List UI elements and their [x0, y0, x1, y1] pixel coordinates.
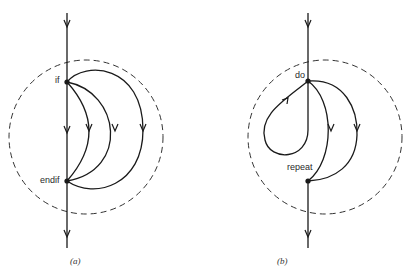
panel-a — [9, 13, 163, 248]
branch-outer-a — [67, 70, 143, 189]
caption-b: (b) — [277, 256, 288, 266]
branch-outer-b — [308, 81, 357, 181]
arrow-down-icon — [328, 124, 334, 131]
node-do — [305, 78, 310, 83]
panel-b — [248, 13, 402, 248]
label-do: do — [295, 70, 305, 80]
caption-a: (a) — [70, 256, 81, 266]
label-repeat: repeat — [287, 162, 313, 172]
loop-back-edge — [264, 81, 308, 155]
dashed-boundary-b — [248, 60, 402, 214]
branch-inner-a — [67, 82, 89, 181]
node-repeat — [305, 178, 310, 183]
label-endif: endif — [40, 175, 60, 185]
node-if — [64, 79, 69, 84]
dashed-boundary-a — [9, 60, 163, 214]
figure-canvas — [0, 0, 415, 277]
node-endif — [64, 178, 69, 183]
arrow-down-icon — [112, 124, 118, 131]
label-if: if — [55, 75, 60, 85]
